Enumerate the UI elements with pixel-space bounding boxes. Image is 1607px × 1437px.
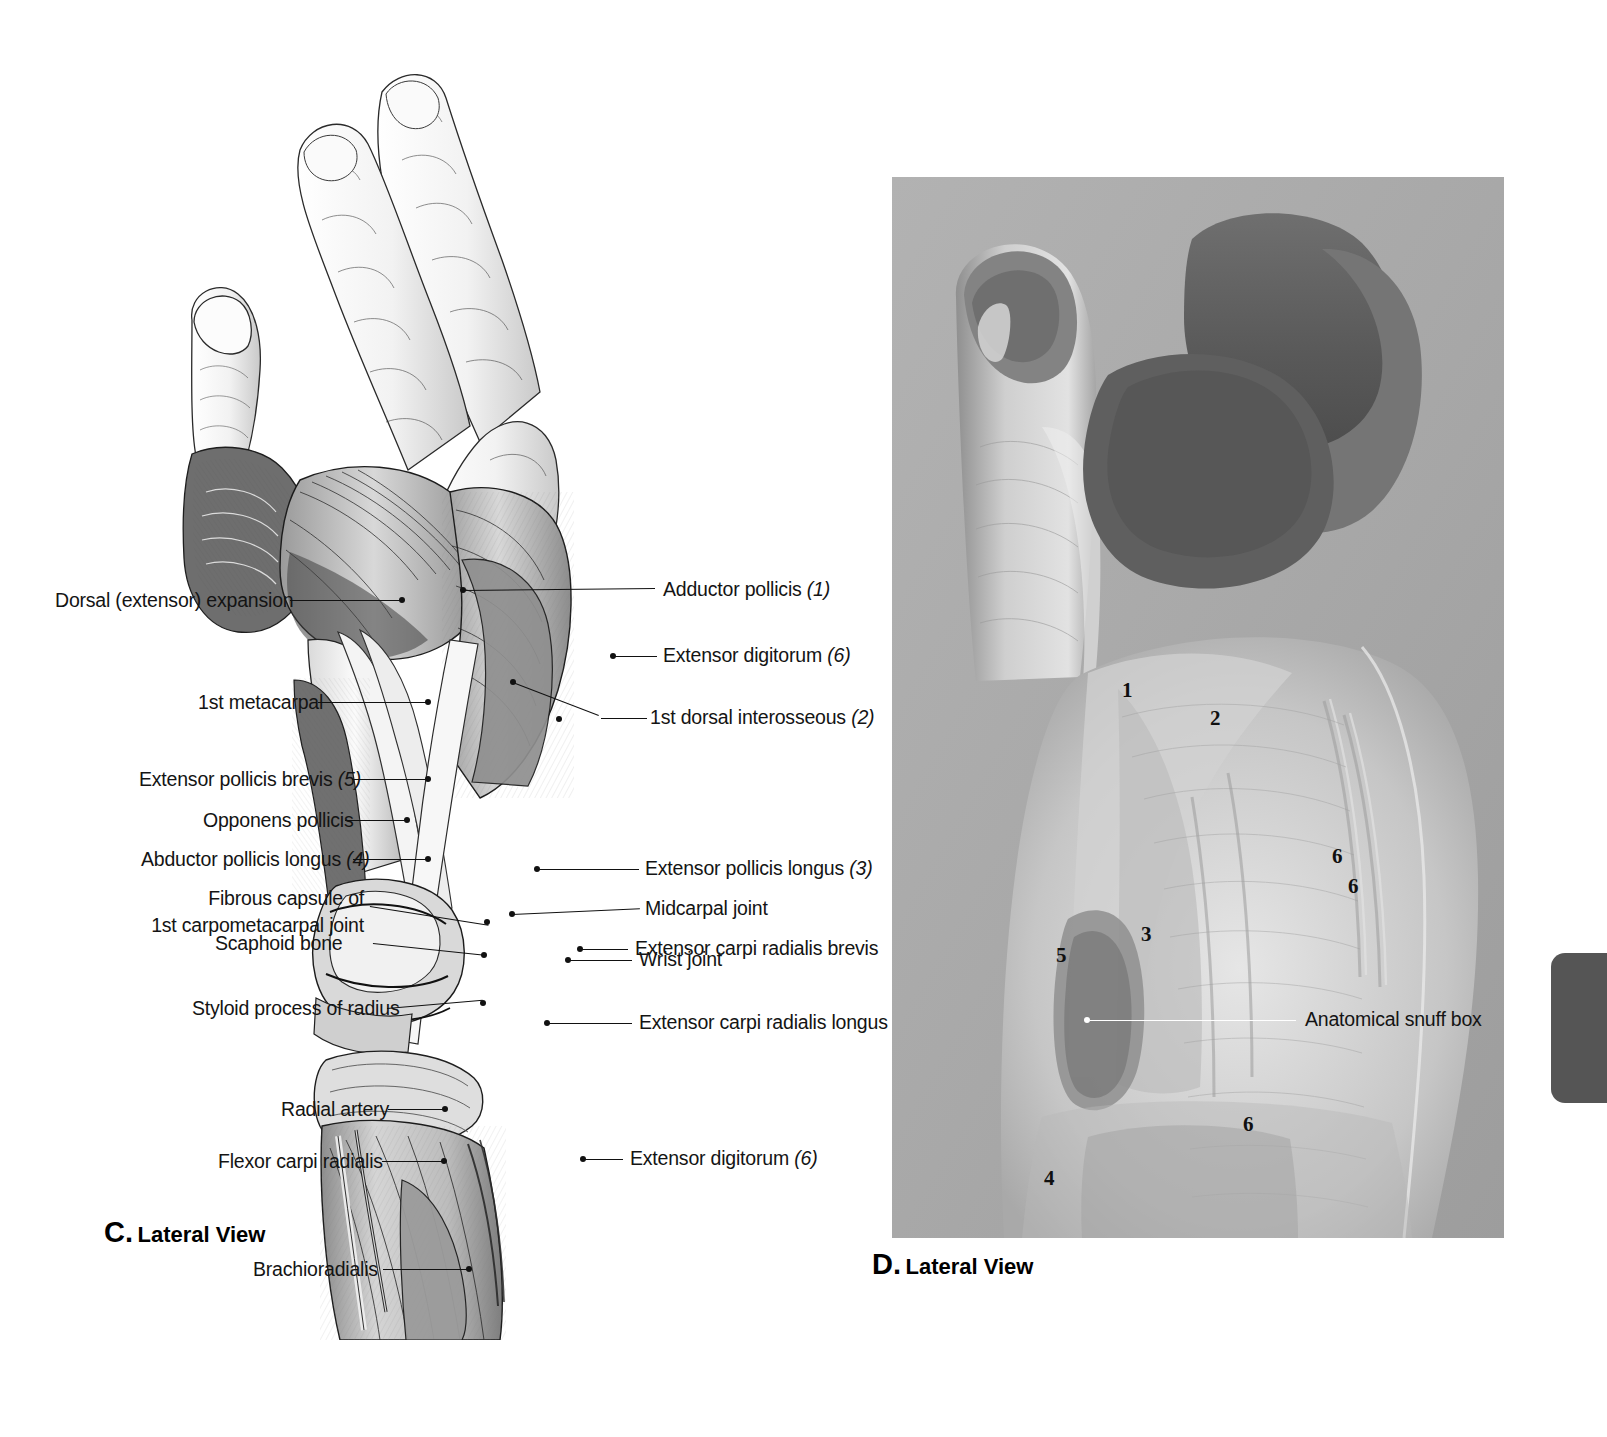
marker-4: 4 (1044, 1166, 1055, 1191)
leader-opponens-pollicis (345, 820, 407, 821)
leader-anatomical-snuff-box (1090, 1020, 1296, 1021)
anchor-extensor-digitorum-lower (580, 1156, 586, 1162)
leader-extensor-pollicis-brevis (352, 779, 428, 780)
marker-2: 2 (1210, 706, 1221, 731)
label-extensor-pollicis-longus: Extensor pollicis longus (3) (645, 856, 872, 881)
label-midcarpal-joint: Midcarpal joint (645, 896, 768, 921)
leader-extensor-carpi-radialis-brevis (580, 949, 628, 950)
anchor-opponens-pollicis (404, 817, 410, 823)
anchor-extensor-carpi-radialis-longus (544, 1020, 550, 1026)
anchor-anatomical-snuff-box (1084, 1017, 1090, 1023)
leader-extensor-pollicis-longus (537, 869, 639, 870)
leader-dorsal-extensor-expansion (290, 600, 402, 601)
leader-first-dorsal-interosseous (601, 718, 647, 719)
label-radial-artery: Radial artery (281, 1097, 389, 1122)
panel-c-caption: C. Lateral View (104, 1216, 265, 1249)
anchor-first-dorsal-interosseous-upper (510, 679, 516, 685)
panel-d-caption-letter: D. (872, 1248, 901, 1280)
label-scaphoid-bone: Scaphoid bone (215, 931, 343, 956)
leader-first-metacarpal (318, 702, 428, 703)
leader-extensor-digitorum-lower (583, 1159, 623, 1160)
leader-wrist-joint (568, 960, 632, 961)
label-brachioradialis: Brachioradialis (253, 1257, 378, 1282)
anchor-first-metacarpal (425, 699, 431, 705)
anchor-extensor-digitorum-upper (610, 653, 616, 659)
label-extensor-pollicis-brevis: Extensor pollicis brevis (5) (139, 767, 361, 792)
leader-abductor-pollicis-longus (353, 859, 428, 860)
panel-c-caption-text: Lateral View (137, 1222, 265, 1247)
anchor-adductor-pollicis (460, 587, 466, 593)
label-extensor-digitorum-upper: Extensor digitorum (6) (663, 643, 850, 668)
label-abductor-pollicis-longus: Abductor pollicis longus (4) (141, 847, 370, 872)
label-styloid-process-of-radius: Styloid process of radius (192, 996, 399, 1021)
anchor-styloid-process-of-radius (480, 1000, 486, 1006)
marker-3: 3 (1141, 922, 1152, 947)
label-anatomical-snuff-box: Anatomical snuff box (1305, 1007, 1482, 1032)
marker-6-b: 6 (1348, 874, 1359, 899)
label-extensor-carpi-radialis-longus: Extensor carpi radialis longus (639, 1010, 888, 1035)
marker-1: 1 (1122, 678, 1133, 703)
marker-6-a: 6 (1332, 844, 1343, 869)
label-first-metacarpal: 1st metacarpal (198, 690, 323, 715)
panel-d-photograph (892, 177, 1504, 1238)
label-wrist-joint-text-node: Wrist joint (639, 947, 722, 972)
anchor-fibrous-capsule-cmc (484, 919, 490, 925)
anchor-brachioradialis (466, 1266, 472, 1272)
panel-c-caption-letter: C. (104, 1216, 133, 1248)
anchor-extensor-pollicis-brevis (425, 776, 431, 782)
leader-radial-artery (388, 1109, 445, 1110)
label-extensor-digitorum-lower: Extensor digitorum (6) (630, 1146, 817, 1171)
leader-brachioradialis (383, 1269, 469, 1270)
anchor-radial-artery (442, 1106, 448, 1112)
leader-flexor-carpi-radialis (382, 1161, 444, 1162)
marker-6-c: 6 (1243, 1112, 1254, 1137)
anchor-abductor-pollicis-longus (425, 856, 431, 862)
label-dorsal-extensor-expansion: Dorsal (extensor) expansion (55, 588, 293, 613)
anchor-dorsal-extensor-expansion (399, 597, 405, 603)
panel-d-caption: D. Lateral View (872, 1248, 1033, 1281)
leader-extensor-carpi-radialis-longus (547, 1023, 632, 1024)
anchor-extensor-carpi-radialis-brevis (577, 946, 583, 952)
leader-extensor-digitorum-upper (613, 656, 657, 657)
anchor-wrist-joint (565, 957, 571, 963)
marker-5: 5 (1056, 943, 1067, 968)
label-first-dorsal-interosseous: 1st dorsal interosseous (2) (650, 705, 874, 730)
anchor-extensor-pollicis-longus (534, 866, 540, 872)
label-adductor-pollicis: Adductor pollicis (1) (663, 577, 830, 602)
anchor-midcarpal-joint (509, 911, 515, 917)
anchor-scaphoid-bone (481, 952, 487, 958)
page-thumb-tab[interactable] (1551, 953, 1607, 1103)
label-opponens-pollicis: Opponens pollicis (203, 808, 354, 833)
anchor-flexor-carpi-radialis (441, 1158, 447, 1164)
label-flexor-carpi-radialis: Flexor carpi radialis (218, 1149, 383, 1174)
anchor-first-dorsal-interosseous (556, 716, 562, 722)
panel-d-caption-text: Lateral View (905, 1254, 1033, 1279)
